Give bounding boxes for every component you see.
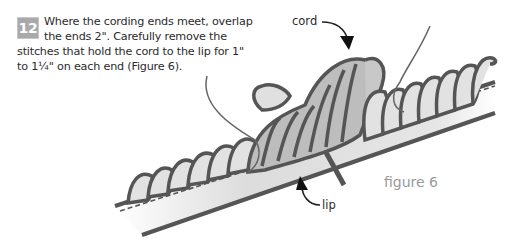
cord-arrow [322,22,354,50]
cording-illustration [0,0,516,251]
figure-caption: figure 6 [384,174,438,190]
cord-label: cord [292,14,317,28]
lip-arrow [296,176,320,205]
lip-label: lip [322,198,336,212]
